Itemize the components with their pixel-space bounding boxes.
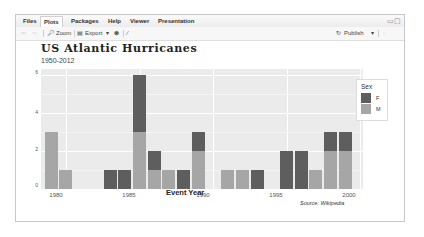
bar-segment-m — [221, 170, 234, 189]
bar-segment-m — [339, 151, 352, 189]
bar-segment-f — [280, 151, 293, 189]
bar-segment-f — [339, 132, 352, 151]
gridline — [41, 113, 363, 114]
minimize-maximize-icons[interactable]: ▭▢ — [387, 17, 401, 25]
bar-segment-f — [192, 132, 205, 151]
publish-caret-icon[interactable]: ▾ — [371, 29, 374, 38]
plot-area — [41, 69, 363, 189]
zoom-icon[interactable]: 🔎︎ — [47, 29, 55, 38]
back-arrow-icon[interactable]: ⇦ — [21, 29, 26, 38]
plots-toolbar: ⇦ ⇨ 🔎︎ Zoom ▤ Export ▾ ⊗ ⁄ ↻ Publish ▾ ◌ — [16, 27, 404, 41]
bar-segment-f — [324, 132, 337, 151]
publish-button[interactable]: Publish — [344, 29, 364, 38]
legend: Sex F M — [356, 79, 388, 121]
gridline — [41, 94, 363, 95]
remove-plot-icon[interactable]: ⊗ — [114, 29, 119, 38]
bar-segment-m — [324, 151, 337, 189]
tab-files[interactable]: Files — [20, 16, 40, 26]
legend-title: Sex — [361, 83, 372, 90]
export-icon[interactable]: ▤ — [77, 29, 83, 38]
gridline — [213, 69, 214, 189]
gridline — [41, 75, 363, 76]
forward-arrow-icon[interactable]: ⇨ — [32, 29, 37, 38]
tab-help[interactable]: Help — [105, 16, 124, 26]
bar-segment-m — [192, 151, 205, 189]
x-tick: 1985 — [117, 192, 141, 198]
tab-packages[interactable]: Packages — [68, 16, 102, 26]
publish-icon[interactable]: ↻ — [336, 29, 341, 38]
tab-viewer[interactable]: Viewer — [127, 16, 152, 26]
y-tick: 0 — [30, 182, 38, 188]
chart-title: US Atlantic Hurricanes — [41, 42, 197, 55]
refresh-icon[interactable]: ◌ — [383, 29, 387, 38]
legend-label-f: F — [376, 95, 379, 101]
export-button[interactable]: Export — [85, 29, 102, 38]
bar-segment-m — [148, 170, 161, 189]
bar-segment-f — [148, 151, 161, 170]
x-axis-label: Event Year — [166, 188, 204, 197]
bar-segment-m — [162, 170, 175, 189]
y-tick: 6 — [30, 69, 38, 75]
bar-segment-f — [133, 75, 146, 132]
bar-segment-m — [236, 170, 249, 189]
x-tick: 1995 — [264, 192, 288, 198]
bar-segment-f — [104, 170, 117, 189]
tab-plots[interactable]: Plots — [40, 16, 63, 27]
bar-segment-m — [45, 132, 58, 189]
legend-key-m — [361, 104, 371, 114]
y-tick: 4 — [30, 109, 38, 115]
x-tick: 2000 — [337, 192, 361, 198]
legend-key-f — [361, 93, 371, 103]
zoom-button[interactable]: Zoom — [56, 29, 71, 38]
bar-segment-f — [251, 170, 264, 189]
plots-pane: Files Plots Packages Help Viewer Present… — [15, 14, 405, 222]
legend-label-m: M — [376, 106, 381, 112]
tab-presentation[interactable]: Presentation — [155, 16, 197, 26]
broom-clear-icon[interactable]: ⁄ — [127, 29, 128, 38]
bar-segment-m — [309, 170, 322, 189]
chart-subtitle: 1950-2012 — [41, 57, 74, 64]
x-tick: 1980 — [44, 192, 68, 198]
bar-segment-f — [295, 151, 308, 189]
bar-segment-m — [59, 170, 72, 189]
chart-caption: Source: Wikipedia — [300, 200, 344, 206]
y-tick: 2 — [30, 146, 38, 152]
export-caret-icon[interactable]: ▾ — [106, 29, 109, 38]
bar-segment-f — [118, 170, 131, 189]
bar-segment-f — [177, 170, 190, 189]
bar-segment-m — [133, 132, 146, 189]
